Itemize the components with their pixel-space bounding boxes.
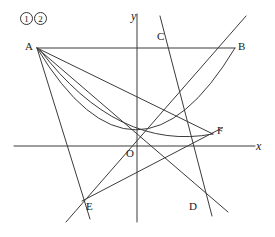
point-label-b: B <box>238 41 245 52</box>
point-label-d: D <box>189 201 197 212</box>
parabola-curve-2 <box>40 50 213 137</box>
curve-tag-1: 1 <box>20 12 33 25</box>
point-label-c: C <box>157 31 164 42</box>
curve-tag-2: 2 <box>34 12 47 25</box>
figure-svg <box>0 0 275 237</box>
origin-label: O <box>126 148 134 159</box>
geometry-figure-canvas: 1 2 A B C D E F O x y <box>0 0 275 237</box>
point-label-a: A <box>25 41 33 52</box>
segment-ae <box>37 48 90 219</box>
y-axis-label: y <box>131 10 136 22</box>
segment-af <box>37 48 213 134</box>
parabola-curve-1 <box>37 48 235 130</box>
segment-ef <box>82 128 222 201</box>
point-label-f: F <box>217 125 223 136</box>
segment-cd <box>160 16 212 216</box>
segment-eb <box>66 16 246 222</box>
x-axis-label: x <box>256 140 261 152</box>
point-label-e: E <box>86 201 93 212</box>
